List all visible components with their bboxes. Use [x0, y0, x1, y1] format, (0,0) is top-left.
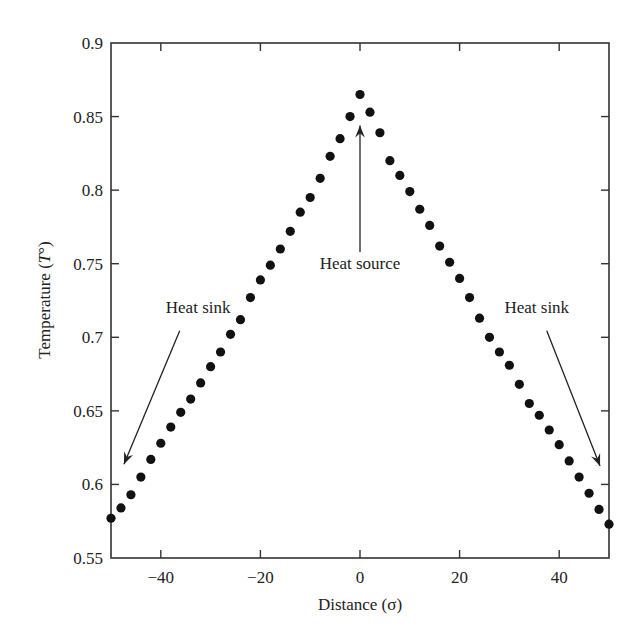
data-point — [385, 156, 394, 165]
y-tick-label: 0.6 — [82, 475, 103, 494]
data-point — [345, 112, 354, 121]
y-tick-label: 0.9 — [82, 34, 103, 53]
data-point — [286, 227, 295, 236]
y-tick-label: 0.7 — [82, 328, 104, 347]
x-tick-label: 20 — [451, 568, 468, 587]
data-point — [186, 394, 195, 403]
heat-sink-right-label: Heat sink — [504, 298, 569, 317]
data-point — [475, 314, 484, 323]
y-title-text: Temperature ( — [35, 263, 54, 359]
data-point — [256, 275, 265, 284]
data-point — [236, 315, 245, 324]
data-point — [555, 440, 564, 449]
data-point — [395, 171, 404, 180]
data-point — [166, 422, 175, 431]
data-point — [266, 261, 275, 270]
heat-source-label: Heat source — [320, 254, 401, 273]
y-tick-label: 0.85 — [73, 108, 103, 127]
data-point — [455, 274, 464, 283]
heat-sink-left-label: Heat sink — [166, 298, 231, 317]
data-point — [216, 347, 225, 356]
data-point — [106, 514, 115, 523]
x-tick-label: −20 — [247, 568, 274, 587]
x-tick-label: 0 — [356, 568, 365, 587]
y-tick-label: 0.65 — [73, 402, 103, 421]
data-point — [505, 361, 514, 370]
data-point — [375, 128, 384, 137]
data-point — [465, 293, 474, 302]
x-tick-label: 40 — [551, 568, 568, 587]
data-point — [136, 472, 145, 481]
data-point — [306, 193, 315, 202]
data-point — [355, 90, 364, 99]
data-point — [206, 362, 215, 371]
y-tick-label: 0.75 — [73, 255, 103, 274]
data-point — [415, 205, 424, 214]
data-point — [445, 258, 454, 267]
data-point — [146, 455, 155, 464]
data-point — [545, 425, 554, 434]
data-point — [176, 408, 185, 417]
data-point — [276, 244, 285, 253]
x-axis-title: Distance (σ) — [318, 595, 402, 614]
y-axis-title: Temperature (T°) — [35, 241, 54, 359]
heat-sink-left-arrow-line — [124, 331, 180, 465]
data-point — [365, 108, 374, 117]
x-tick-label: −40 — [148, 568, 175, 587]
data-point — [535, 411, 544, 420]
y-title-suffix: °) — [35, 241, 54, 253]
data-point — [405, 187, 414, 196]
annotations: Heat sourceHeat sinkHeat sink — [124, 125, 600, 466]
chart: −40−2002040 0.550.60.650.70.750.80.850.9… — [0, 0, 637, 642]
data-point — [425, 221, 434, 230]
data-point — [326, 152, 335, 161]
data-point — [226, 330, 235, 339]
data-point — [485, 333, 494, 342]
data-point — [435, 241, 444, 250]
data-point — [584, 489, 593, 498]
data-point — [196, 378, 205, 387]
data-point — [604, 520, 613, 529]
data-point — [335, 134, 344, 143]
data-point — [495, 347, 504, 356]
scatter-plot: −40−2002040 0.550.60.650.70.750.80.850.9… — [0, 0, 637, 642]
data-point — [316, 174, 325, 183]
data-point — [515, 380, 524, 389]
data-point — [525, 399, 534, 408]
data-point — [116, 503, 125, 512]
y-tick-label: 0.8 — [82, 181, 103, 200]
data-point — [126, 490, 135, 499]
data-point — [156, 439, 165, 448]
data-point — [565, 456, 574, 465]
data-point — [594, 505, 603, 514]
data-point — [246, 293, 255, 302]
data-point — [296, 208, 305, 217]
data-point — [575, 472, 584, 481]
y-tick-label: 0.55 — [73, 549, 103, 568]
